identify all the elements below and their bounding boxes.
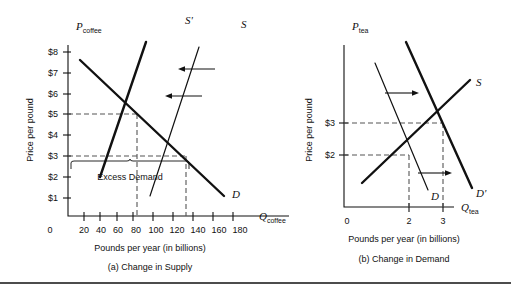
panel-a-y-ticks	[63, 52, 71, 198]
panel-b-axes	[344, 45, 454, 207]
panel-b-y-axis-var: Ptea	[351, 20, 369, 34]
panel-a-ytick-5: $5	[48, 109, 58, 119]
panel-b-shift-arrow-2	[418, 170, 452, 175]
panel-a-xtick-60: 60	[113, 225, 123, 235]
panel-a-xtick-80: 80	[131, 225, 141, 235]
panel-a-curve-label-s: S	[241, 18, 247, 30]
panel-b-ytick-3: $3	[325, 118, 335, 128]
panel-a: $1 $2 $3 $4 $5 $6 $7 $8 20 40 60	[25, 14, 289, 253]
panel-b-origin-label: 0	[344, 216, 349, 226]
panel-a-xtick-120: 120	[169, 225, 184, 235]
panel-a-ytick-7: $7	[48, 68, 58, 78]
panel-a-x-axis-var: Qcoffee	[259, 210, 286, 224]
panel-b-x-axis-var: Qtea	[461, 201, 479, 215]
figure-container: $1 $2 $3 $4 $5 $6 $7 $8 20 40 60	[0, 0, 511, 287]
panel-a-shift-arrow-1	[178, 66, 215, 71]
panel-b-xtick-3: 3	[440, 216, 445, 226]
panel-a-xtick-160: 160	[211, 225, 226, 235]
panel-a-xtick-20: 20	[79, 225, 89, 235]
panel-b-curve-label-s: S	[476, 76, 482, 88]
panel-a-y-axis-var: Pcoffee	[75, 20, 102, 34]
panel-a-y-axis-title: Price per pound	[25, 98, 35, 162]
panel-a-ytick-1: $1	[48, 193, 58, 203]
panel-a-xtick-180: 180	[232, 225, 247, 235]
panel-a-ytick-3: $3	[48, 151, 58, 161]
panel-a-ytick-4: $4	[48, 130, 58, 140]
panel-a-excess-demand-label: Excess Demand	[97, 172, 163, 182]
panel-a-x-axis-title: Pounds per year (in billions)	[94, 243, 206, 253]
panel-b: $2 $3 2 3 0 Ptea Qtea Price per pound Po…	[304, 20, 487, 244]
panel-a-xtick-40: 40	[96, 225, 106, 235]
panel-a-xtick-100: 100	[148, 225, 163, 235]
panel-b-supply-curve	[362, 80, 470, 183]
panel-b-curve-label-d: D	[430, 190, 439, 202]
panel-a-xtick-140: 140	[190, 225, 205, 235]
panel-a-curve-label-s-prime: S'	[185, 14, 194, 26]
panel-a-supply-shifted-curve	[100, 42, 146, 177]
panel-a-excess-demand-brace	[71, 159, 189, 169]
panel-b-curve-label-d-prime: D'	[475, 187, 487, 199]
panel-a-ytick-2: $2	[48, 172, 58, 182]
panel-a-axes	[68, 45, 289, 216]
panel-a-ytick-6: $6	[48, 89, 58, 99]
panel-b-guides	[344, 123, 443, 207]
panel-a-origin-label: 0	[47, 225, 52, 235]
panel-b-x-axis-title: Pounds per year (in billions)	[348, 234, 460, 244]
panel-b-xtick-2: 2	[406, 216, 411, 226]
panel-a-caption: (a) Change in Supply	[108, 262, 193, 272]
panel-a-ytick-8: $8	[48, 47, 58, 57]
panel-b-ytick-2: $2	[325, 150, 335, 160]
panel-b-caption: (b) Change in Demand	[358, 254, 449, 264]
economics-figure: $1 $2 $3 $4 $5 $6 $7 $8 20 40 60	[0, 0, 511, 287]
panel-a-guides	[68, 114, 186, 216]
panel-b-demand-shifted-curve	[406, 42, 472, 188]
panel-a-curve-label-d: D	[231, 188, 240, 200]
panel-b-shift-arrow-1	[385, 90, 419, 95]
panel-b-y-axis-title: Price per pound	[304, 98, 314, 162]
